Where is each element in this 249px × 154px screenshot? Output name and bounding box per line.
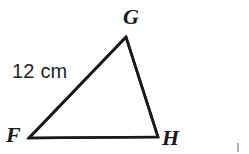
triangle-side-gh — [126, 37, 158, 137]
scan-artifact-mark — [237, 143, 239, 152]
triangle-fgh-outline — [29, 37, 158, 138]
vertex-label-f: F — [6, 124, 21, 146]
side-measure-label-fg: 12 cm — [12, 61, 67, 81]
geometry-figure-canvas: G F H 12 cm — [0, 0, 249, 154]
triangle-side-fg — [29, 37, 126, 138]
vertex-label-g: G — [123, 6, 139, 28]
vertex-label-h: H — [162, 127, 179, 149]
triangle-side-fh — [29, 137, 158, 138]
